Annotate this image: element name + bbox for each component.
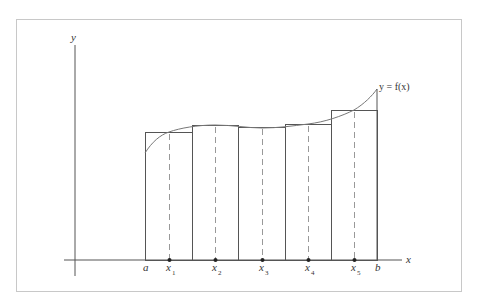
y-axis-label: y [70,31,76,43]
x-axis-label: x [405,253,411,265]
b-label: b [375,261,381,273]
curve-label: y = f(x) [379,81,410,93]
a-label: a [143,261,149,273]
curve-label-text: y = f(x) [379,81,410,93]
diagram-canvas: y x y = f(x) a b x1x2x3x4x5 [0,0,480,307]
riemann-sum-figure: y x y = f(x) a b x1x2x3x4x5 [0,0,480,307]
